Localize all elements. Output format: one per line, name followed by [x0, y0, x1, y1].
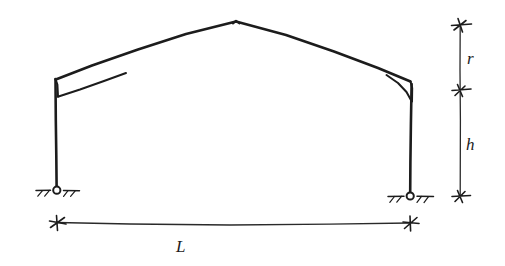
left-pinned-support	[36, 187, 80, 197]
dimension-tick-top	[452, 19, 472, 33]
span-dimension-line	[57, 223, 410, 226]
right-haunch-diagonal	[387, 75, 412, 101]
right-pinned-support	[388, 192, 434, 202]
span-tick-left	[50, 216, 67, 231]
dimension-tick-bottom	[452, 191, 471, 203]
portal-frame-svg: r h L	[0, 0, 505, 266]
rafter-rise-label: r	[467, 49, 474, 68]
span-label: L	[175, 237, 185, 256]
right-rafter	[236, 22, 411, 82]
column-height-label: h	[466, 135, 475, 154]
left-pin-circle	[53, 187, 60, 194]
left-haunch-diagonal	[58, 73, 126, 97]
right-pin-circle	[407, 192, 414, 199]
vertical-dimension-group: r h	[452, 19, 475, 203]
right-column	[410, 84, 411, 192]
left-rafter	[56, 22, 236, 80]
span-dimension-group: L	[50, 216, 420, 257]
frame-structure	[56, 21, 413, 192]
figure-root: r h L	[0, 0, 505, 266]
dimension-tick-middle	[452, 85, 471, 97]
left-column	[56, 79, 57, 186]
